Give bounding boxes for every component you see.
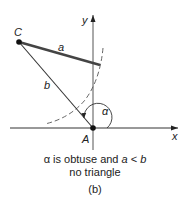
side-b	[19, 42, 93, 128]
caption-line-2: no triangle	[0, 166, 190, 179]
caption-operator: <	[128, 153, 141, 165]
label-a-point: A	[81, 133, 89, 145]
label-x-axis: x	[171, 130, 178, 142]
caption-prefix: α is obtuse and	[44, 153, 119, 165]
label-c: C	[14, 26, 22, 38]
label-alpha: α	[102, 105, 109, 117]
label-side-a: a	[58, 41, 64, 53]
label-y-axis: y	[81, 14, 89, 26]
label-side-b: b	[44, 79, 50, 91]
caption-line-1: α is obtuse and a < b	[0, 153, 190, 166]
dashed-arc	[45, 48, 103, 124]
point-c	[16, 39, 22, 45]
panel-label: (b)	[0, 183, 190, 196]
caption-var-b: b	[140, 153, 146, 165]
point-a	[90, 125, 96, 131]
